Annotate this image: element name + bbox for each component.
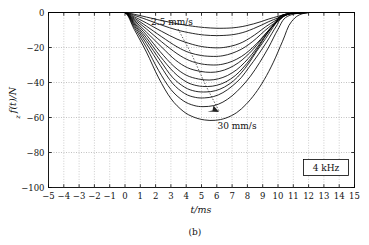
y-tick-label: −60 <box>27 113 45 123</box>
x-axis-title-text: t/ms <box>191 204 212 215</box>
chart-canvas: −5−4−3−2−10123456789101112131415 0−20−40… <box>0 0 369 245</box>
x-tick-label: −2 <box>88 191 101 201</box>
y-tick-label: −20 <box>27 43 45 53</box>
y-tick-label: 0 <box>39 8 44 18</box>
annotation-top-label: 2.5 mm/s <box>151 17 193 27</box>
x-tick-label: 13 <box>318 191 329 201</box>
x-tick-label: 11 <box>288 191 299 201</box>
x-tick-label: 7 <box>229 191 234 201</box>
y-axis-title-subscript: z <box>14 115 22 120</box>
x-tick-label: −1 <box>103 191 116 201</box>
x-tick-label: 14 <box>334 191 345 201</box>
figure-panel-b: −5−4−3−2−10123456789101112131415 0−20−40… <box>0 0 369 245</box>
svg-text:z: z <box>14 115 22 120</box>
x-tick-label: −3 <box>73 191 86 201</box>
x-axis-title: t/ms <box>191 204 212 215</box>
x-tick-label: 1 <box>138 191 143 201</box>
y-axis-title-text: f(t)/N <box>7 86 18 114</box>
figure-caption: (b) <box>189 227 202 237</box>
x-tick-label: 6 <box>214 191 219 201</box>
x-tick-labels: −5−4−3−2−10123456789101112131415 <box>42 191 360 201</box>
svg-text:f(t)/N: f(t)/N <box>7 86 18 114</box>
x-tick-label: −4 <box>58 191 71 201</box>
x-tick-label: 8 <box>245 191 250 201</box>
annotation-bottom-label: 30 mm/s <box>217 121 256 131</box>
x-tick-label: 10 <box>273 191 284 201</box>
x-tick-label: 2 <box>153 191 158 201</box>
y-tick-label: −40 <box>27 78 45 88</box>
legend-label: 4 kHz <box>313 163 340 173</box>
y-axis-title: f(t)/N z <box>7 86 22 120</box>
x-tick-label: 15 <box>349 191 360 201</box>
x-tick-label: 5 <box>199 191 204 201</box>
x-tick-label: 12 <box>303 191 314 201</box>
y-tick-label: −80 <box>27 148 45 158</box>
y-tick-labels: 0−20−40−60−80−100 <box>21 8 44 193</box>
x-tick-label: 3 <box>168 191 173 201</box>
x-tick-label: 0 <box>122 191 127 201</box>
x-tick-label: 9 <box>260 191 265 201</box>
y-tick-label: −100 <box>21 183 44 193</box>
x-tick-label: 4 <box>183 191 188 201</box>
